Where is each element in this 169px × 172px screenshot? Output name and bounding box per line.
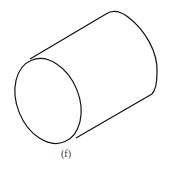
- front-face-ellipse: [3, 49, 93, 154]
- figure-caption: (f): [54, 148, 78, 159]
- cylinder-diagram: [0, 0, 169, 172]
- top-edge-line: [30, 14, 106, 59]
- back-face-arc: [106, 12, 157, 94]
- bottom-edge-line: [76, 94, 152, 138]
